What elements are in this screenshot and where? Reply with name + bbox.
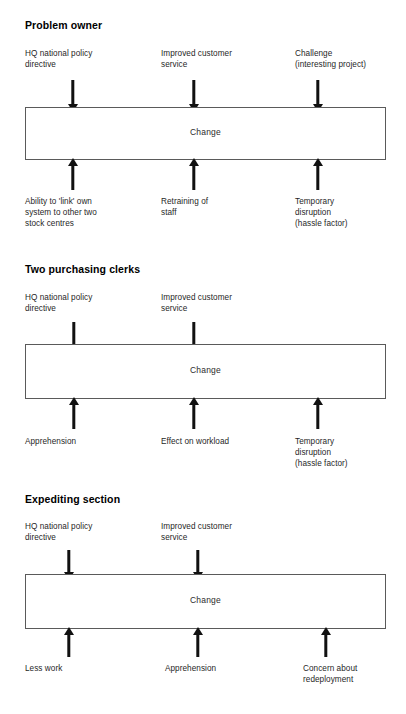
restraining-force-label-2-2: Effect on workload xyxy=(161,436,291,447)
change-box-label-2: Change xyxy=(26,365,385,375)
restraining-force-label-2-3: Temporary disruption (hassle factor) xyxy=(295,436,405,470)
driving-force-label-2-1: HQ national policy directive xyxy=(25,292,150,314)
section-heading-problem-owner: Problem owner xyxy=(25,19,102,31)
driving-force-label-1-1: HQ national policy directive xyxy=(25,48,150,70)
restraining-force-label-1-1: Ability to 'link' own system to other tw… xyxy=(25,196,155,230)
restraining-force-label-3-2: Apprehension xyxy=(165,663,290,674)
driving-force-label-1-2: Improved customer service xyxy=(161,48,286,70)
driving-force-label-3-1: HQ national policy directive xyxy=(25,521,150,543)
restraining-force-label-3-1: Less work xyxy=(25,663,145,674)
driving-force-label-3-2: Improved customer service xyxy=(161,521,286,543)
force-field-diagram-page: Problem owner HQ national policy directi… xyxy=(0,0,406,714)
change-box-label-3: Change xyxy=(26,595,385,605)
section-two-purchasing-clerks: Two purchasing clerks HQ national policy… xyxy=(0,240,406,480)
change-box-label-1: Change xyxy=(26,127,385,137)
change-box-3: Change xyxy=(25,574,386,629)
section-heading-expediting-section: Expediting section xyxy=(25,493,120,505)
section-expediting-section: Expediting section HQ national policy di… xyxy=(0,480,406,714)
driving-force-label-1-3: Challenge (interesting project) xyxy=(295,48,405,70)
restraining-force-label-3-3: Concern about redeployment xyxy=(303,663,403,685)
change-box-2: Change xyxy=(25,344,386,399)
restraining-force-label-1-2: Retraining of staff xyxy=(161,196,286,218)
restraining-force-label-1-3: Temporary disruption (hassle factor) xyxy=(295,196,405,230)
change-box-1: Change xyxy=(25,107,386,160)
section-problem-owner: Problem owner HQ national policy directi… xyxy=(0,0,406,240)
section-heading-two-purchasing-clerks: Two purchasing clerks xyxy=(25,263,140,275)
driving-force-label-2-2: Improved customer service xyxy=(161,292,286,314)
restraining-force-label-2-1: Apprehension xyxy=(25,436,155,447)
